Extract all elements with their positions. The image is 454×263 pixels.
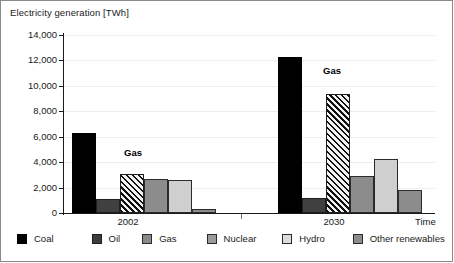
legend-swatch-icon xyxy=(92,234,102,244)
bar-gas-2002 xyxy=(120,174,144,213)
y-tick xyxy=(59,35,64,36)
y-tick xyxy=(59,162,64,163)
y-tick xyxy=(59,188,64,189)
bar-coal-2030 xyxy=(278,57,302,213)
y-tick xyxy=(59,60,64,61)
y-tick-label: 8,000 xyxy=(1,106,57,116)
chart-legend: CoalOilGasNuclearHydroOther renewables xyxy=(17,233,445,244)
y-tick-label: 4,000 xyxy=(1,157,57,167)
legend-label: Gas xyxy=(159,233,176,244)
bar-oil-2030 xyxy=(302,198,326,213)
bar-nuclear-2030 xyxy=(350,176,374,213)
y-tick-label: 10,000 xyxy=(1,81,57,91)
legend-label: Coal xyxy=(34,233,54,244)
x-axis-title: Time xyxy=(415,216,436,227)
bar-group-2030 xyxy=(278,35,422,213)
legend-label: Other renewables xyxy=(370,233,445,244)
legend-item-oil[interactable]: Oil xyxy=(92,233,121,244)
legend-item-coal[interactable]: Coal xyxy=(17,233,54,244)
bar-hydro-2030 xyxy=(374,159,398,213)
legend-swatch-icon xyxy=(142,234,152,244)
bar-hydro-2002 xyxy=(168,180,192,213)
x-axis-midtick xyxy=(241,214,242,219)
legend-swatch-icon xyxy=(17,234,27,244)
y-tick-label: 6,000 xyxy=(1,132,57,142)
legend-label: Nuclear xyxy=(224,233,257,244)
y-tick-label: 14,000 xyxy=(1,30,57,40)
bar-other-renewables-2030 xyxy=(398,190,422,213)
legend-item-other-renewables[interactable]: Other renewables xyxy=(353,233,445,244)
y-tick-label: 12,000 xyxy=(1,55,57,65)
bar-coal-2002 xyxy=(72,133,96,213)
bar-oil-2002 xyxy=(96,199,120,213)
y-tick xyxy=(59,213,64,214)
legend-swatch-icon xyxy=(282,234,292,244)
y-tick-label: 0 xyxy=(1,208,57,218)
chart-figure: Electricity generation [TWh] 02,0004,000… xyxy=(0,0,453,262)
legend-label: Hydro xyxy=(299,233,324,244)
y-tick xyxy=(59,111,64,112)
bar-group-2002 xyxy=(72,35,216,213)
y-tick xyxy=(59,86,64,87)
legend-label: Oil xyxy=(109,233,121,244)
y-tick-label: 2,000 xyxy=(1,183,57,193)
y-tick xyxy=(59,137,64,138)
x-axis-line xyxy=(63,213,435,214)
legend-item-gas[interactable]: Gas xyxy=(142,233,176,244)
bar-other-renewables-2002 xyxy=(192,209,216,213)
bar-nuclear-2002 xyxy=(144,179,168,213)
annotation-gas-2002: Gas xyxy=(124,147,142,158)
x-group-label-2030: 2030 xyxy=(299,216,369,227)
y-axis-title: Electricity generation [TWh] xyxy=(10,7,129,18)
legend-item-hydro[interactable]: Hydro xyxy=(282,233,324,244)
x-group-label-2002: 2002 xyxy=(93,216,163,227)
legend-swatch-icon xyxy=(353,234,363,244)
legend-item-nuclear[interactable]: Nuclear xyxy=(207,233,257,244)
annotation-gas-2030: Gas xyxy=(323,65,341,76)
bar-gas-2030 xyxy=(326,94,350,213)
legend-swatch-icon xyxy=(207,234,217,244)
